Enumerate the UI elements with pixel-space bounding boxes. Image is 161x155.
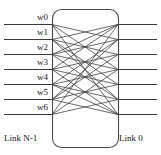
crossbar-link-21	[52, 25, 118, 55]
channel-label-w1: w1	[28, 28, 48, 37]
network-diagram-figure: w0 w1 w2 w3 w4 w5 w6 Link N-1 Link 0	[0, 0, 161, 155]
channel-label-w0: w0	[28, 13, 48, 22]
crossbar-connections	[52, 25, 118, 115]
diagram-canvas	[0, 0, 161, 155]
link-label-left: Link N-1	[4, 133, 37, 143]
link-label-right: Link 0	[119, 133, 143, 143]
channel-label-w5: w5	[28, 88, 48, 97]
crossbar-link-22	[52, 85, 118, 115]
channel-label-w4: w4	[28, 73, 48, 82]
channel-label-w3: w3	[28, 58, 48, 67]
channel-label-w2: w2	[28, 43, 48, 52]
channel-label-w6: w6	[28, 103, 48, 112]
